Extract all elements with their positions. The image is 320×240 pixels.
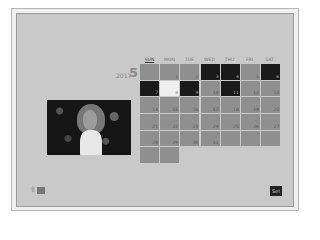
calendar-empty-cell (140, 147, 159, 163)
day-number: 5 (256, 74, 259, 79)
calendar-empty-cell (261, 131, 280, 147)
weekday-sun: SUN (140, 57, 159, 63)
day-number: 17 (213, 107, 219, 112)
day-number: 9 (196, 90, 199, 95)
calendar-day-29[interactable]: 29 (160, 131, 179, 147)
day-number: 8 (175, 90, 178, 95)
day-number: 11 (233, 90, 239, 95)
calendar-day-18[interactable]: 18 (221, 97, 240, 113)
day-number: 26 (253, 124, 259, 129)
day-number: 25 (233, 124, 239, 129)
calendar-day-7[interactable]: 7 (140, 81, 159, 97)
calendar-day-30[interactable]: 30 (180, 131, 199, 147)
selected-date-thumbnail[interactable] (47, 100, 131, 155)
weekday-header: SUNMONTUEWEDTHUFRISAT (140, 57, 280, 63)
day-number: 2 (196, 74, 199, 79)
calendar-day-10[interactable]: 10 (201, 81, 220, 97)
playback-icon (37, 187, 45, 194)
calendar-day-25[interactable]: 25 (221, 114, 240, 130)
calendar-day-6[interactable]: 6 (261, 64, 280, 80)
set-button[interactable]: Set (270, 186, 282, 196)
day-number: 20 (273, 107, 279, 112)
day-number: 16 (193, 107, 199, 112)
calendar-empty-cell (160, 147, 179, 163)
weekday-sat: SAT (260, 57, 279, 63)
calendar-empty-cell (140, 64, 159, 80)
calendar-day-17[interactable]: 17 (201, 97, 220, 113)
day-number: 13 (273, 90, 279, 95)
calendar-day-8[interactable]: 8 (160, 81, 179, 97)
day-number: 30 (193, 140, 199, 145)
calendar-day-5[interactable]: 5 (241, 64, 260, 80)
calendar-day-9[interactable]: 9 (180, 81, 199, 97)
calendar-day-23[interactable]: 23 (180, 114, 199, 130)
day-number: 4 (236, 74, 239, 79)
day-number: 21 (152, 124, 158, 129)
calendar-day-16[interactable]: 16 (180, 97, 199, 113)
weekday-fri: FRI (240, 57, 259, 63)
calendar-day-21[interactable]: 21 (140, 114, 159, 130)
calendar-day-11[interactable]: 11 (221, 81, 240, 97)
thumbnail-mannequin (80, 130, 102, 155)
day-number: 22 (172, 124, 178, 129)
calendar-day-14[interactable]: 14 (140, 97, 159, 113)
day-number: 29 (172, 140, 178, 145)
day-number: 28 (152, 140, 158, 145)
calendar-grid: SUNMONTUEWEDTHUFRISAT 123456789101112131… (140, 57, 280, 163)
calendar-day-3[interactable]: 3 (201, 64, 220, 80)
calendar-day-31[interactable]: 31 (201, 131, 220, 147)
day-number: 3 (216, 74, 219, 79)
calendar-day-22[interactable]: 22 (160, 114, 179, 130)
calendar-day-13[interactable]: 13 (261, 81, 280, 97)
day-number: 31 (213, 140, 219, 145)
day-number: 24 (213, 124, 219, 129)
day-number: 7 (155, 90, 158, 95)
weekday-tue: TUE (180, 57, 199, 63)
calendar-day-15[interactable]: 15 (160, 97, 179, 113)
calendar-day-26[interactable]: 26 (241, 114, 260, 130)
calendar-day-19[interactable]: 19 (241, 97, 260, 113)
playback-indicator: ⇧ (30, 186, 46, 195)
calendar-day-20[interactable]: 20 (261, 97, 280, 113)
day-number: 27 (273, 124, 279, 129)
day-number: 19 (253, 107, 259, 112)
day-number: 15 (172, 107, 178, 112)
calendar-day-28[interactable]: 28 (140, 131, 159, 147)
weekday-mon: MON (160, 57, 179, 63)
calendar-day-1[interactable]: 1 (160, 64, 179, 80)
calendar-cells: 1234567891011121314151617181920212223242… (140, 64, 280, 163)
calendar-empty-cell (241, 131, 260, 147)
day-number: 18 (233, 107, 239, 112)
month-label: 5 (129, 65, 138, 80)
calendar-day-27[interactable]: 27 (261, 114, 280, 130)
day-number: 10 (213, 90, 219, 95)
calendar-day-4[interactable]: 4 (221, 64, 240, 80)
up-arrow-icon: ⇧ (30, 186, 36, 195)
thumbnail-face (83, 110, 97, 130)
day-number: 1 (175, 74, 178, 79)
day-number: 23 (193, 124, 199, 129)
weekday-wed: WED (200, 57, 219, 63)
calendar-day-24[interactable]: 24 (201, 114, 220, 130)
day-number: 14 (152, 107, 158, 112)
day-number: 12 (253, 90, 259, 95)
weekday-thu: THU (220, 57, 239, 63)
calendar-day-12[interactable]: 12 (241, 81, 260, 97)
day-number: 6 (276, 74, 279, 79)
calendar-empty-cell (221, 131, 240, 147)
calendar-day-2[interactable]: 2 (180, 64, 199, 80)
